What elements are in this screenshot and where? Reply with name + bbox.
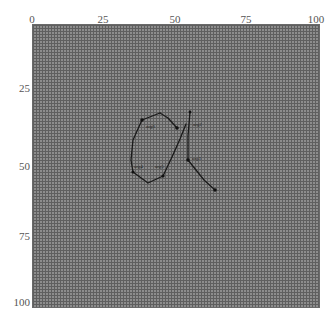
keypoint-6 xyxy=(213,188,217,192)
keypoint-label-2: arg2 xyxy=(193,122,202,127)
keypoint-3 xyxy=(186,158,190,162)
stroke-2 xyxy=(160,113,177,128)
keypoint-4 xyxy=(131,170,134,173)
keypoint-2 xyxy=(189,111,192,114)
keypoint-0 xyxy=(140,118,144,122)
keypoint-label-5: arg5 xyxy=(155,164,164,169)
keypoint-label-3: arg3 xyxy=(192,156,201,161)
keypoint-5 xyxy=(161,174,164,177)
keypoint-label-4: arg4 xyxy=(134,164,143,169)
keypoint-1 xyxy=(175,126,179,130)
sketch-overlay: arg0 arg2 arg3 arg4 arg5 xyxy=(0,0,334,319)
keypoint-label-0: arg0 xyxy=(146,124,155,129)
stroke-1 xyxy=(131,113,186,183)
